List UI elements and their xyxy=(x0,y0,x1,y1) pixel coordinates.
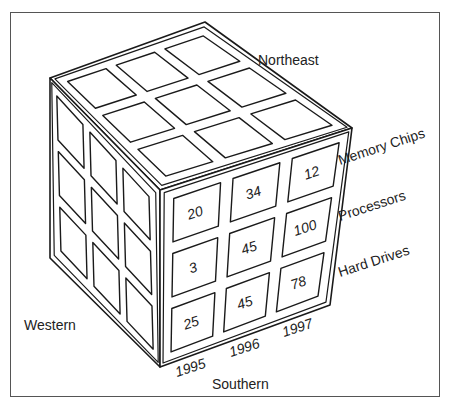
row-label-hard-drives: Hard Drives xyxy=(336,242,411,280)
label-southern: Southern xyxy=(212,376,269,392)
data-cube: 203412345100254578 Northeast Western Sou… xyxy=(0,0,451,406)
row-label-processors: Processors xyxy=(336,187,408,224)
label-northeast: Northeast xyxy=(258,52,319,68)
label-western: Western xyxy=(24,317,76,333)
